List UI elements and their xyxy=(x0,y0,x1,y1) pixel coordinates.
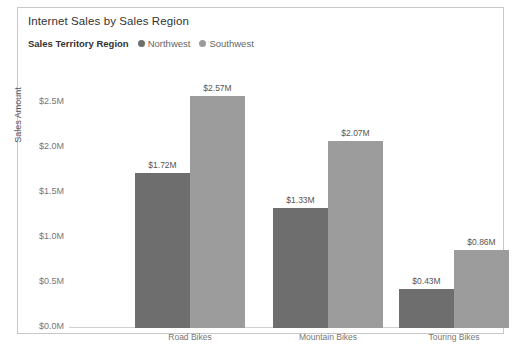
legend-item-northwest[interactable]: Northwest xyxy=(138,38,191,49)
bar-northwest-mountain-bikes[interactable] xyxy=(273,208,328,328)
bar-value-label: $0.86M xyxy=(454,237,509,247)
y-axis-tick-label: $2.0M xyxy=(39,141,64,151)
bar-value-label: $1.72M xyxy=(135,160,190,170)
bar-southwest-touring-bikes[interactable] xyxy=(454,250,509,328)
bar-group: $1.72M$2.57MRoad Bikes xyxy=(135,80,245,328)
bar-group: $0.43M$0.86MTouring Bikes xyxy=(399,80,509,328)
legend-label-northwest: Northwest xyxy=(148,38,191,49)
y-axis-tick-labels: $2.5M$2.0M$1.5M$1.0M$0.5M$0.0M xyxy=(18,8,64,335)
x-axis-category-label: Mountain Bikes xyxy=(273,332,383,342)
legend-label-southwest: Southwest xyxy=(209,38,253,49)
legend-marker-southwest xyxy=(199,40,206,47)
chart-visual-container[interactable]: Internet Sales by Sales Region Sales Ter… xyxy=(17,7,504,334)
y-axis-tick-label: $0.5M xyxy=(39,276,64,286)
y-axis-tick-label: $2.5M xyxy=(39,96,64,106)
bar-value-label: $2.57M xyxy=(190,83,245,93)
bar-southwest-mountain-bikes[interactable] xyxy=(328,141,383,328)
bar-group: $1.33M$2.07MMountain Bikes xyxy=(273,80,383,328)
bar-value-label: $2.07M xyxy=(328,128,383,138)
x-axis-category-label: Road Bikes xyxy=(135,332,245,342)
plot-area: $1.72M$2.57MRoad Bikes$1.33M$2.07MMounta… xyxy=(69,80,494,328)
x-axis-category-label: Touring Bikes xyxy=(399,332,509,342)
bar-southwest-road-bikes[interactable] xyxy=(190,96,245,328)
bar-northwest-touring-bikes[interactable] xyxy=(399,289,454,328)
bar-value-label: $1.33M xyxy=(273,195,328,205)
legend-item-southwest[interactable]: Southwest xyxy=(199,38,253,49)
legend-marker-northwest xyxy=(138,40,145,47)
bar-northwest-road-bikes[interactable] xyxy=(135,173,190,328)
bar-value-label: $0.43M xyxy=(399,276,454,286)
y-axis-tick-label: $1.5M xyxy=(39,186,64,196)
y-axis-tick-label: $0.0M xyxy=(39,321,64,331)
y-axis-tick-label: $1.0M xyxy=(39,231,64,241)
